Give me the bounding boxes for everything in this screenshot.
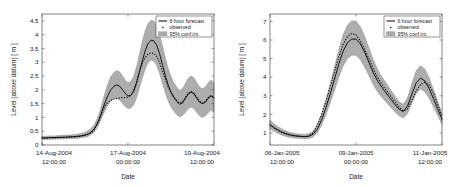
legend-item-label: observed — [170, 24, 191, 30]
plot-area: 123456706-Jan-200512:00:0009-Jan-200500:… — [228, 0, 456, 187]
x-axis-label: Date — [121, 173, 135, 180]
x-tick-label-date: 19-Aug-2004 — [184, 149, 220, 156]
y-tick-label: 3.5 — [30, 45, 39, 52]
y-tick-label: 4 — [35, 31, 39, 38]
legend-item-label: 95% conf.int. — [398, 31, 428, 37]
y-tick-label: 4.5 — [30, 17, 39, 24]
legend-item-label: 95% conf.int. — [170, 31, 200, 37]
y-tick-label: 3 — [263, 92, 267, 99]
x-tick-label-time: 00:00:00 — [344, 158, 369, 165]
legend: 6 hour forecast+observed95% conf.int. — [156, 16, 212, 37]
x-tick-label-time: 12:00:00 — [270, 158, 295, 165]
y-tick-label: 0 — [35, 141, 39, 148]
x-tick-label-date: 11-Jan-2005 — [413, 149, 448, 156]
legend: 6 hour forecast+observed95% conf.int. — [384, 16, 440, 37]
y-tick-label: 2.5 — [30, 72, 39, 79]
plot-area: 00.511.522.533.544.514-Aug-200412:00:001… — [0, 0, 228, 187]
x-tick-label-time: 12:00:00 — [418, 158, 443, 165]
y-tick-label: 1.5 — [30, 100, 39, 107]
y-tick-label: 1 — [35, 114, 39, 121]
y-axis-label: Level (above datum) [ m ] — [10, 43, 18, 116]
y-tick-label: 5 — [263, 55, 267, 62]
legend-item-label: observed — [398, 24, 419, 30]
legend-item-label: 6 hour forecast — [170, 18, 205, 24]
y-tick-label: 1 — [263, 129, 267, 136]
chart-panel-january-2005: 123456706-Jan-200512:00:0009-Jan-200500:… — [228, 0, 456, 187]
confidence-band — [42, 20, 214, 139]
x-axis-label: Date — [349, 173, 363, 180]
x-tick-label-time: 00:00:00 — [116, 158, 141, 165]
x-tick-label-date: 14-Aug-2004 — [36, 149, 72, 156]
x-tick-label-date: 17-Aug-2004 — [110, 149, 146, 156]
x-tick-label-date: 09-Jan-2005 — [339, 149, 374, 156]
y-tick-label: 6 — [263, 36, 267, 43]
y-axis-label: Level (above datum) [ m ] — [238, 43, 246, 116]
svg-text:+: + — [161, 24, 164, 30]
x-tick-label-date: 06-Jan-2005 — [265, 149, 300, 156]
x-tick-label-time: 12:00:00 — [190, 158, 215, 165]
chart-panel-august-2004: 00.511.522.533.544.514-Aug-200412:00:001… — [0, 0, 228, 187]
x-tick-label-time: 12:00:00 — [42, 158, 67, 165]
y-tick-label: 2 — [263, 111, 267, 118]
y-tick-label: 2 — [35, 86, 39, 93]
y-tick-label: 0.5 — [30, 127, 39, 134]
y-tick-label: 3 — [35, 58, 39, 65]
y-tick-label: 4 — [263, 73, 267, 80]
forecast-figure: 00.511.522.533.544.514-Aug-200412:00:001… — [0, 0, 456, 187]
svg-text:+: + — [389, 24, 392, 30]
y-tick-label: 7 — [263, 18, 267, 25]
legend-item-label: 6 hour forecast — [398, 18, 433, 24]
